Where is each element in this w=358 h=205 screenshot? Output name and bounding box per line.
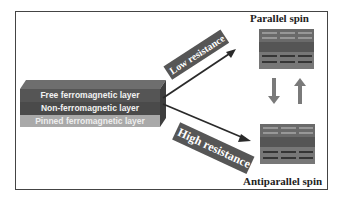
parallel-spin-title: Parallel spin — [250, 12, 309, 24]
antiparallel-spin-title: Antiparallel spin — [243, 175, 322, 187]
down-arrow-shaft — [272, 78, 276, 96]
antiparallel-spin-stack — [260, 124, 315, 164]
non-ferromagnetic-layer-label: Non-ferromagnetic layer — [20, 103, 160, 113]
free-layer-label: Free ferromagnetic layer — [20, 90, 160, 100]
low-arrowhead-icon — [226, 49, 236, 58]
pinned-layer-label: Pinned ferromagnetic layer — [20, 116, 160, 126]
parallel-spin-stack — [259, 29, 314, 69]
up-arrow-icon — [294, 78, 306, 86]
high-arrowhead-icon — [238, 134, 251, 142]
down-arrow-icon — [268, 96, 280, 104]
stack-top-face — [20, 80, 166, 89]
up-arrow-shaft — [298, 86, 302, 104]
